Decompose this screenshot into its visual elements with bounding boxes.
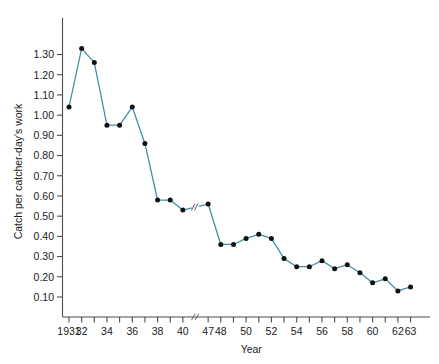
y-tick-label: 1.10 xyxy=(34,89,55,101)
x-axis-ticks: 1931323436384047485052545658606263 xyxy=(57,317,416,337)
x-tick-label: 50 xyxy=(240,325,252,337)
data-point xyxy=(307,264,312,269)
data-point xyxy=(155,198,160,203)
y-tick-label: 0.10 xyxy=(34,291,55,303)
data-point xyxy=(282,256,287,261)
x-tick-label: 48 xyxy=(215,325,227,337)
data-point-markers xyxy=(67,46,414,294)
data-point xyxy=(320,258,325,263)
data-point xyxy=(370,280,375,285)
y-tick-label: 0.90 xyxy=(34,129,55,141)
y-tick-label: 1.30 xyxy=(34,48,55,60)
x-tick-label: 36 xyxy=(126,325,138,337)
y-tick-label: 0.60 xyxy=(34,190,55,202)
x-tick-label: 60 xyxy=(367,325,379,337)
data-point xyxy=(244,236,249,241)
y-tick-label: 0.30 xyxy=(34,250,55,262)
x-tick-label: 52 xyxy=(266,325,278,337)
data-point xyxy=(395,288,400,293)
y-tick-label: 0.70 xyxy=(34,170,55,182)
data-point xyxy=(357,270,362,275)
data-point xyxy=(130,105,135,110)
y-tick-label: 0.20 xyxy=(34,271,55,283)
data-point xyxy=(104,123,109,128)
data-point xyxy=(256,232,261,237)
x-tick-label: 63 xyxy=(405,325,417,337)
x-tick-label: 38 xyxy=(152,325,164,337)
y-tick-label: 1.00 xyxy=(34,109,55,121)
series-break-symbol xyxy=(192,202,200,211)
x-axis-title: Year xyxy=(241,343,263,355)
line-chart: 0.100.200.300.400.500.600.700.800.901.00… xyxy=(0,0,439,364)
x-tick-label: 56 xyxy=(316,325,328,337)
data-point xyxy=(142,141,147,146)
data-series-line xyxy=(69,48,411,291)
x-tick-label: 34 xyxy=(101,325,113,337)
data-point xyxy=(206,202,211,207)
y-axis-ticks: 0.100.200.300.400.500.600.700.800.901.00… xyxy=(34,48,63,302)
y-tick-label: 0.40 xyxy=(34,230,55,242)
data-point xyxy=(92,60,97,65)
y-tick-label: 1.20 xyxy=(34,69,55,81)
x-tick-label: 32 xyxy=(76,325,88,337)
data-point xyxy=(117,123,122,128)
x-tick-label: 40 xyxy=(177,325,189,337)
chart-figure: 0.100.200.300.400.500.600.700.800.901.00… xyxy=(0,0,439,364)
x-tick-label: 47 xyxy=(202,325,214,337)
data-point xyxy=(269,236,274,241)
x-tick-label: 54 xyxy=(291,325,303,337)
data-point xyxy=(294,264,299,269)
data-point xyxy=(168,198,173,203)
data-point xyxy=(231,242,236,247)
data-point xyxy=(408,284,413,289)
y-tick-label: 0.50 xyxy=(34,210,55,222)
data-point xyxy=(67,105,72,110)
data-point xyxy=(79,46,84,51)
y-axis-title: Catch per catcher-day's work xyxy=(12,103,24,239)
x-tick-label: 58 xyxy=(341,325,353,337)
data-point xyxy=(332,266,337,271)
x-tick-label: 62 xyxy=(392,325,404,337)
data-point xyxy=(218,242,223,247)
data-point xyxy=(180,208,185,213)
y-tick-label: 0.80 xyxy=(34,149,55,161)
data-point xyxy=(383,276,388,281)
data-point xyxy=(345,262,350,267)
